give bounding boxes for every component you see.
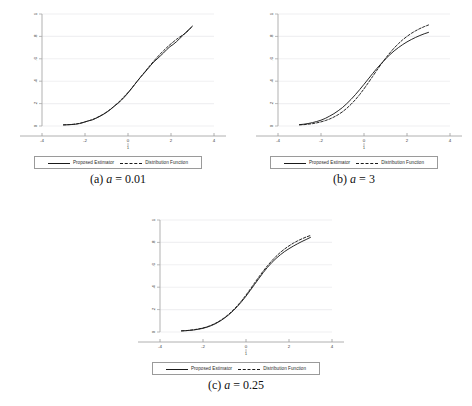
svg-text:.4: .4 xyxy=(269,79,274,83)
legend-label-distribution-function: Distribution Function xyxy=(381,160,424,165)
svg-text:.2: .2 xyxy=(269,101,274,105)
svg-text:1: 1 xyxy=(363,145,366,150)
svg-text:-2: -2 xyxy=(319,138,323,143)
caption-a-eq: = xyxy=(115,172,122,186)
legend-label-distribution-function: Distribution Function xyxy=(145,160,188,165)
caption-c-value: 0.25 xyxy=(243,378,264,392)
caption-c-var: a xyxy=(224,378,230,392)
svg-text:0: 0 xyxy=(245,344,248,349)
svg-text:2: 2 xyxy=(288,344,291,349)
caption-b-var: a xyxy=(350,172,356,186)
legend-line-dashed-icon xyxy=(356,160,378,166)
svg-text:1: 1 xyxy=(269,12,274,15)
panel-c: 0.2.4.6.81-4-20241 Proposed Estimator Di… xyxy=(126,210,346,402)
caption-a-value: 0.01 xyxy=(125,172,146,186)
caption-a: (a) a = 0.01 xyxy=(8,172,228,187)
legend-line-dashed-icon xyxy=(238,366,260,372)
svg-text:1: 1 xyxy=(245,351,248,356)
svg-text:4: 4 xyxy=(331,344,334,349)
svg-text:0: 0 xyxy=(151,330,156,333)
caption-c-eq: = xyxy=(233,378,240,392)
legend-entry-distribution-function: Distribution Function xyxy=(238,366,306,372)
figure-container: 0.2.4.6.81-4-20241 Proposed Estimator Di… xyxy=(0,0,472,406)
svg-text:-4: -4 xyxy=(158,344,162,349)
svg-text:1: 1 xyxy=(127,145,130,150)
legend-b: Proposed Estimator Distribution Function xyxy=(270,156,438,169)
legend-entry-proposed-estimator: Proposed Estimator xyxy=(166,366,232,372)
svg-text:0: 0 xyxy=(33,124,38,127)
svg-text:.8: .8 xyxy=(269,34,274,38)
legend-line-solid-icon xyxy=(284,160,306,166)
svg-text:-2: -2 xyxy=(83,138,87,143)
svg-text:0: 0 xyxy=(269,124,274,127)
plot-a-content: 0.2.4.6.81-4-20241 xyxy=(20,12,226,150)
legend-entry-proposed-estimator: Proposed Estimator xyxy=(284,160,350,166)
svg-text:4: 4 xyxy=(213,138,216,143)
legend-entry-distribution-function: Distribution Function xyxy=(120,160,188,166)
caption-b: (b) a = 3 xyxy=(244,172,464,187)
svg-text:0: 0 xyxy=(363,138,366,143)
legend-c: Proposed Estimator Distribution Function xyxy=(152,362,320,375)
legend-label-distribution-function: Distribution Function xyxy=(263,366,306,371)
plot-b: 0.2.4.6.81-4-20241 xyxy=(244,4,464,154)
svg-text:4: 4 xyxy=(449,138,452,143)
plot-c-svg: 0.2.4.6.81-4-20241 xyxy=(126,210,346,360)
plot-b-content: 0.2.4.6.81-4-20241 xyxy=(256,12,462,150)
svg-text:-4: -4 xyxy=(276,138,280,143)
svg-text:.6: .6 xyxy=(269,56,274,60)
caption-b-index: (b) xyxy=(333,172,347,186)
plot-c: 0.2.4.6.81-4-20241 xyxy=(126,210,346,360)
legend-line-solid-icon xyxy=(48,160,70,166)
caption-c: (c) a = 0.25 xyxy=(126,378,346,393)
svg-text:2: 2 xyxy=(406,138,409,143)
svg-text:.2: .2 xyxy=(151,307,156,311)
svg-text:1: 1 xyxy=(33,12,38,15)
svg-text:0: 0 xyxy=(127,138,130,143)
svg-text:1: 1 xyxy=(151,218,156,221)
panel-a: 0.2.4.6.81-4-20241 Proposed Estimator Di… xyxy=(8,4,228,196)
legend-entry-distribution-function: Distribution Function xyxy=(356,160,424,166)
svg-text:.6: .6 xyxy=(151,262,156,266)
svg-text:.8: .8 xyxy=(151,240,156,244)
plot-a-svg: 0.2.4.6.81-4-20241 xyxy=(8,4,228,154)
svg-text:.2: .2 xyxy=(33,101,38,105)
svg-text:.4: .4 xyxy=(151,285,156,289)
caption-a-index: (a) xyxy=(90,172,103,186)
legend-label-proposed-estimator: Proposed Estimator xyxy=(73,160,114,165)
plot-c-content: 0.2.4.6.81-4-20241 xyxy=(138,218,344,356)
svg-text:.8: .8 xyxy=(33,34,38,38)
legend-line-dashed-icon xyxy=(120,160,142,166)
svg-text:-4: -4 xyxy=(40,138,44,143)
legend-a: Proposed Estimator Distribution Function xyxy=(34,156,202,169)
legend-entry-proposed-estimator: Proposed Estimator xyxy=(48,160,114,166)
plot-a: 0.2.4.6.81-4-20241 xyxy=(8,4,228,154)
caption-b-value: 3 xyxy=(369,172,375,186)
plot-b-svg: 0.2.4.6.81-4-20241 xyxy=(244,4,464,154)
legend-label-proposed-estimator: Proposed Estimator xyxy=(309,160,350,165)
svg-text:.6: .6 xyxy=(33,56,38,60)
legend-line-solid-icon xyxy=(166,366,188,372)
svg-text:2: 2 xyxy=(170,138,173,143)
caption-a-var: a xyxy=(106,172,112,186)
legend-label-proposed-estimator: Proposed Estimator xyxy=(191,366,232,371)
panel-b: 0.2.4.6.81-4-20241 Proposed Estimator Di… xyxy=(244,4,464,196)
caption-b-eq: = xyxy=(359,172,366,186)
svg-text:-2: -2 xyxy=(201,344,205,349)
svg-text:.4: .4 xyxy=(33,79,38,83)
caption-c-index: (c) xyxy=(208,378,221,392)
